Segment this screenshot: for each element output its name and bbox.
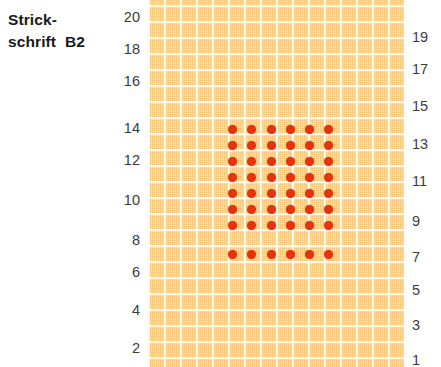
chart-title: Strick- schrift B2 [8, 9, 118, 53]
pattern-dot [267, 157, 276, 166]
pattern-dot [228, 221, 237, 230]
pattern-dot [228, 125, 237, 134]
pattern-dot [267, 125, 276, 134]
pattern-dot [305, 189, 314, 198]
pattern-dot [286, 250, 295, 259]
pattern-dot [267, 173, 276, 182]
pattern-dot [305, 205, 314, 214]
row-number-label: 7 [412, 250, 420, 265]
row-number-label: 18 [124, 42, 140, 57]
pattern-dot [228, 173, 237, 182]
row-number-label: 1 [412, 353, 420, 367]
pattern-dot [286, 173, 295, 182]
pattern-dot [305, 125, 314, 134]
pattern-dot [324, 205, 333, 214]
left-row-numbers: 2018161412108642 [104, 0, 140, 367]
row-number-label: 16 [124, 74, 140, 89]
pattern-dot [267, 205, 276, 214]
pattern-dot [324, 189, 333, 198]
pattern-dot [324, 141, 333, 150]
row-number-label: 14 [124, 121, 140, 136]
pattern-dot [267, 141, 276, 150]
row-number-label: 20 [124, 10, 140, 25]
pattern-dot [267, 250, 276, 259]
pattern-dot [286, 221, 295, 230]
pattern-dot [247, 250, 256, 259]
pattern-dot [305, 250, 314, 259]
pattern-dot [305, 221, 314, 230]
pattern-dot [228, 205, 237, 214]
row-number-label: 8 [132, 233, 140, 248]
row-number-label: 15 [412, 99, 428, 114]
row-number-label: 3 [412, 318, 420, 333]
chart-title-line-2: schrift B2 [8, 31, 118, 53]
pattern-dot [228, 157, 237, 166]
chart-title-line-1: Strick- [8, 9, 118, 31]
pattern-dot [247, 221, 256, 230]
row-number-label: 10 [124, 193, 140, 208]
pattern-dot [286, 189, 295, 198]
row-number-label: 19 [412, 30, 428, 45]
pattern-dot [286, 205, 295, 214]
row-number-label: 13 [412, 137, 428, 152]
pattern-dot [286, 125, 295, 134]
pattern-dot [324, 221, 333, 230]
pattern-dot [324, 173, 333, 182]
pattern-dot [324, 125, 333, 134]
pattern-dot [228, 189, 237, 198]
pattern-dot [324, 250, 333, 259]
pattern-dot [247, 205, 256, 214]
pattern-dot [305, 157, 314, 166]
pattern-dot [228, 250, 237, 259]
pattern-dot [267, 221, 276, 230]
pattern-dot [267, 189, 276, 198]
pattern-dot [305, 173, 314, 182]
row-number-label: 4 [132, 303, 140, 318]
pattern-dot [305, 141, 314, 150]
pattern-dot [286, 141, 295, 150]
right-row-numbers: 191715131197531 [412, 0, 441, 367]
row-number-label: 17 [412, 62, 428, 77]
pattern-dot [286, 157, 295, 166]
row-number-label: 11 [412, 174, 427, 189]
pattern-dot [228, 141, 237, 150]
row-number-label: 9 [412, 214, 420, 229]
pattern-dot [247, 141, 256, 150]
pattern-dot [247, 157, 256, 166]
pattern-dot [247, 173, 256, 182]
row-number-label: 12 [124, 153, 140, 168]
row-number-label: 5 [412, 283, 420, 298]
pattern-grid [148, 0, 404, 367]
pattern-dot [247, 125, 256, 134]
pattern-dot [247, 189, 256, 198]
grid-shading [148, 0, 404, 367]
pattern-dot [324, 157, 333, 166]
row-number-label: 2 [132, 341, 140, 356]
row-number-label: 6 [132, 265, 140, 280]
knitting-chart: Strick- schrift B2 2018161412108642 1917… [0, 0, 441, 367]
